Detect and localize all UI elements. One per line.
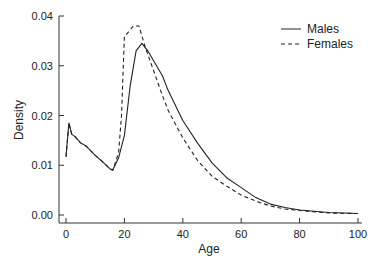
series-line-females: [66, 26, 358, 214]
x-tick-label: 80: [293, 228, 305, 240]
series-lines: [66, 26, 358, 214]
y-tick-label: 0.01: [32, 159, 53, 171]
y-tick-label: 0.04: [32, 10, 53, 22]
y-tick-label: 0.03: [32, 60, 53, 72]
legend-label-females: Females: [307, 37, 353, 51]
density-chart: 0.000.010.020.030.04 020406080100 Densit…: [0, 0, 382, 267]
x-tick-label: 20: [118, 228, 130, 240]
legend: Males Females: [281, 22, 353, 51]
y-tick-label: 0.00: [32, 209, 53, 221]
x-ticks: 020406080100: [63, 218, 367, 240]
legend-label-males: Males: [307, 22, 339, 36]
x-tick-label: 100: [349, 228, 367, 240]
y-tick-label: 0.02: [32, 110, 53, 122]
x-tick-label: 40: [177, 228, 189, 240]
y-axis-label: Density: [12, 100, 26, 140]
series-line-males: [66, 43, 358, 213]
x-tick-label: 60: [235, 228, 247, 240]
x-axis-label: Age: [198, 242, 220, 256]
x-tick-label: 0: [63, 228, 69, 240]
